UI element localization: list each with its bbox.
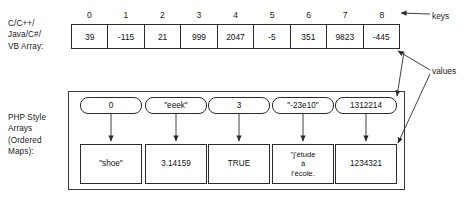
index-label: 0 <box>71 8 108 22</box>
array-cell: 351 <box>291 25 327 48</box>
index-label: 1 <box>108 8 145 22</box>
php-key-pill: "eeek" <box>145 97 207 114</box>
array-to-php-key-connector <box>397 52 404 96</box>
keys-annotation-label: keys <box>432 11 449 22</box>
array-cell: -445 <box>364 25 399 48</box>
php-value-box: TRUE <box>208 144 270 184</box>
php-value-row: "shoe" 3.14159 TRUE "j'étude à l'école. … <box>80 144 396 184</box>
php-value-box: "shoe" <box>80 144 142 184</box>
index-label: 7 <box>327 8 364 22</box>
array-cell: 9823 <box>327 25 363 48</box>
php-key-pill: "-23e10" <box>272 97 334 114</box>
index-label: 5 <box>254 8 291 22</box>
array-cell: 39 <box>72 25 108 48</box>
php-array-row-label: PHP Style Arrays (Ordered Maps): <box>8 112 46 157</box>
php-value-box: 3.14159 <box>145 144 207 184</box>
c-array-row-label: C/C++/ Java/C#/ VB Array: <box>8 18 43 52</box>
index-label: 8 <box>364 8 401 22</box>
php-key-pill: 0 <box>80 97 142 114</box>
c-array-strip: 39 -115 21 999 2047 -5 351 9823 -445 <box>71 24 400 49</box>
php-key-pill: 3 <box>208 97 270 114</box>
index-label: 6 <box>290 8 327 22</box>
array-cell: 21 <box>145 25 181 48</box>
array-cell: -5 <box>254 25 290 48</box>
c-array-index-row: 0 1 2 3 4 5 6 7 8 <box>71 8 400 22</box>
php-key-pill: 1312214 <box>335 97 397 114</box>
php-key-row: 0 "eeek" 3 "-23e10" 1312214 <box>80 97 396 114</box>
index-label: 3 <box>181 8 218 22</box>
array-comparison-diagram: C/C++/ Java/C#/ VB Array: PHP Style Arra… <box>0 0 466 207</box>
keys-pointer-line <box>401 13 430 14</box>
array-cell: -115 <box>108 25 144 48</box>
values-pointer-upper <box>398 51 430 70</box>
php-value-box: "j'étude à l'école. <box>272 144 334 184</box>
values-annotation-label: values <box>432 66 456 77</box>
index-label: 2 <box>144 8 181 22</box>
php-value-box: 1234321 <box>335 144 397 184</box>
array-cell: 2047 <box>218 25 254 48</box>
index-label: 4 <box>217 8 254 22</box>
array-cell: 999 <box>181 25 217 48</box>
